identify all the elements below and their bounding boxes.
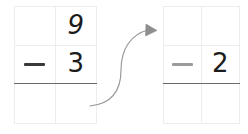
minus-sign-left [24, 63, 45, 66]
subtraction-grid-right: 2 [163, 6, 240, 124]
digit-left-subtrahend: 3 [67, 50, 84, 76]
cell-right-answer[interactable] [202, 84, 240, 123]
curved-arrow-path [90, 30, 148, 106]
cell-left-r3c1[interactable] [15, 84, 56, 123]
cell-left-r2c1[interactable] [15, 46, 56, 85]
curved-arrow-head-icon [146, 24, 158, 36]
curved-arrow [88, 14, 158, 114]
cell-right-r2c1[interactable] [164, 46, 202, 85]
cell-left-r1c1[interactable] [15, 7, 56, 46]
subtraction-grid-left: 9 3 [14, 6, 97, 124]
cell-right-minuend[interactable] [202, 7, 240, 46]
cell-right-r1c1[interactable] [164, 7, 202, 46]
cell-right-r3c1[interactable] [164, 84, 202, 123]
minus-sign-right [172, 63, 193, 66]
answer-rule-right [163, 83, 240, 84]
digit-right-subtrahend: 2 [212, 50, 229, 76]
cell-right-r2c2[interactable]: 2 [202, 46, 240, 85]
answer-rule-left [14, 83, 97, 84]
digit-left-minuend: 9 [67, 12, 84, 38]
worksheet-canvas: 9 3 2 [0, 0, 248, 134]
